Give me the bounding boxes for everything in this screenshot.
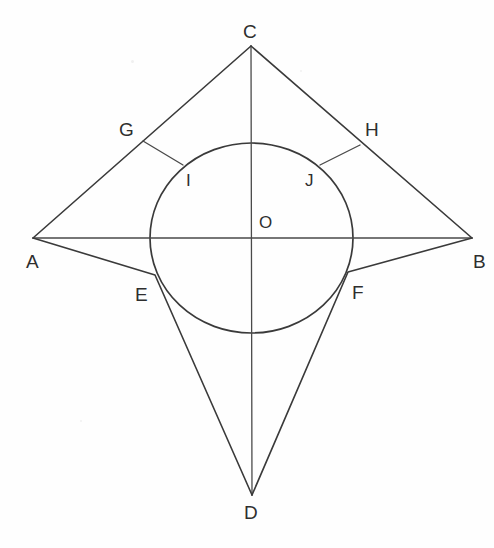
segment-cd-diagonal [251,46,252,495]
scan-speck [80,420,82,422]
label-e: E [135,285,148,304]
label-b: B [473,252,486,271]
segment-gi [143,141,183,165]
segment-hj [320,145,360,165]
label-o: O [259,214,272,231]
label-d: D [244,503,258,522]
segment-bfd [252,238,472,495]
scan-speck [131,60,134,63]
geometry-canvas [0,0,494,548]
segment-aed [33,238,252,495]
segment-ac [33,46,251,238]
geometry-figure: A B C D E F G H I J O [0,0,494,548]
segment-cb [251,46,472,238]
label-a: A [26,252,39,271]
label-g: G [119,120,134,139]
label-j: J [305,172,314,189]
scan-speck [300,70,302,72]
label-i: I [186,172,191,189]
label-c: C [243,22,257,41]
label-h: H [365,120,379,139]
label-f: F [352,283,364,302]
